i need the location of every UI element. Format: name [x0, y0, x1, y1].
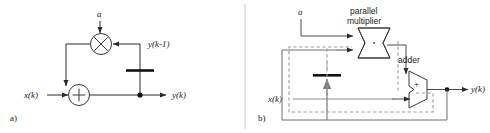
adder-node-a — [69, 85, 90, 106]
label-input-a: x(k) — [23, 90, 38, 100]
adder-plus-sign: + — [414, 79, 419, 89]
figure-canvas: a y(k-1) x(k) — [0, 0, 490, 133]
output-tap-a — [137, 92, 142, 97]
multiplier-node-a — [91, 34, 112, 55]
label-delayed-output-a: y(k-1) — [147, 39, 169, 49]
label-output-b: y(k) — [470, 84, 485, 94]
caption-panel-a: a) — [10, 113, 17, 123]
label-output-a: y(k) — [171, 90, 186, 100]
multiplier-dot — [373, 42, 375, 44]
label-coefficient-a: a — [97, 9, 102, 19]
label-parallel-multiplier-line1: parallel — [350, 6, 378, 16]
caption-panel-b: b) — [258, 113, 266, 123]
label-adder-b: adder — [398, 55, 420, 65]
delay-element-a — [126, 69, 154, 72]
label-coefficient-b: a — [298, 7, 303, 17]
label-parallel-multiplier-line2: multiplier — [347, 16, 381, 26]
label-input-b: x(k) — [267, 94, 282, 104]
